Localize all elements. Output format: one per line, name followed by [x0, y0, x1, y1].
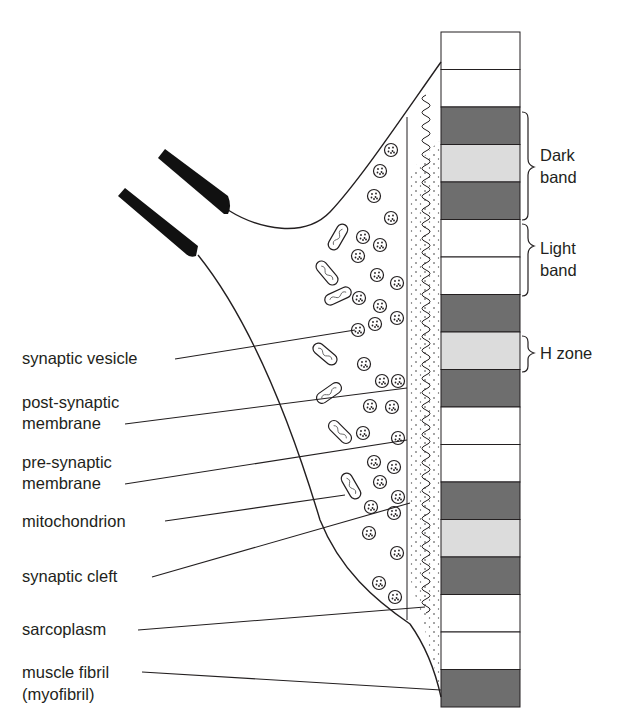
synaptic-vesicle: [357, 231, 370, 244]
axon-sheath-upper: [158, 149, 230, 214]
label-h-zone: H zone: [540, 344, 592, 363]
myofibril-band-white: [441, 220, 520, 258]
muscle-fibril: [441, 32, 520, 707]
myofibril-band-white: [441, 445, 520, 483]
synaptic-vesicle: [391, 547, 404, 560]
synaptic-vesicle: [371, 269, 384, 282]
synaptic-vesicle: [352, 250, 365, 263]
label-light-band-1: Light: [540, 239, 576, 258]
synaptic-vesicle: [374, 165, 387, 178]
nerve-terminal-outline: [228, 62, 441, 228]
label-sarcoplasm: sarcoplasm: [22, 620, 106, 639]
mitochondrion: [323, 285, 353, 307]
myofibril-band-white: [441, 595, 520, 633]
myofibril-band-white: [441, 70, 520, 108]
synaptic-vesicle: [385, 144, 398, 157]
myofibril-band-dark: [441, 107, 520, 145]
mitochondrion: [314, 259, 340, 288]
synaptic-vesicle: [389, 591, 402, 604]
label-synaptic-cleft: synaptic cleft: [22, 567, 117, 586]
label-post-synaptic-membrane-2: membrane: [22, 414, 101, 433]
synaptic-vesicles: [311, 144, 405, 604]
mitochondrion: [314, 380, 343, 405]
synaptic-vesicle: [364, 400, 377, 413]
myofibril-band-dark: [441, 482, 520, 520]
synaptic-vesicle: [392, 491, 405, 504]
myofibril-band-light: [441, 520, 520, 558]
synaptic-vesicle: [385, 212, 398, 225]
label-light-band-2: band: [540, 261, 577, 280]
synaptic-vesicle: [391, 312, 404, 325]
synaptic-vesicle: [391, 277, 404, 290]
myofibril-band-dark: [441, 295, 520, 333]
synaptic-vesicle: [386, 401, 399, 414]
myofibril-band-dark: [441, 670, 520, 708]
mitochondrion: [311, 341, 340, 367]
label-pre-synaptic-membrane-2: membrane: [22, 474, 101, 493]
nerve-terminal-outline-lower: [198, 255, 441, 697]
synaptic-vesicle: [388, 461, 401, 474]
synaptic-vesicle: [365, 501, 378, 514]
synaptic-vesicle: [392, 375, 405, 388]
label-muscle-fibril-2: (myofibril): [22, 685, 94, 704]
band-braces: [522, 112, 534, 372]
mitochondrion: [339, 471, 363, 501]
synaptic-vesicle: [368, 190, 381, 203]
synaptic-vesicle: [369, 318, 382, 331]
synaptic-vesicle: [358, 358, 371, 371]
label-muscle-fibril-1: muscle fibril: [22, 663, 109, 682]
myofibril-band-dark: [441, 370, 520, 408]
synaptic-vesicle: [373, 577, 386, 590]
synaptic-vesicle: [376, 375, 389, 388]
myofibril-band-dark: [441, 182, 520, 220]
mitochondrion: [326, 222, 350, 252]
myofibril-band-white: [441, 632, 520, 670]
mitochondrion: [326, 418, 354, 446]
myofibril-band-white: [441, 32, 520, 70]
axon-sheath-lower: [118, 188, 198, 257]
myofibril-band-white: [441, 407, 520, 445]
myofibril-band-light: [441, 145, 520, 183]
label-post-synaptic-membrane-1: post-synaptic: [22, 393, 119, 412]
synaptic-vesicle: [374, 300, 387, 313]
myofibril-band-white: [441, 257, 520, 295]
synaptic-vesicle: [353, 292, 366, 305]
myofibril-band-light: [441, 332, 520, 370]
label-dark-band-2: band: [540, 168, 577, 187]
synaptic-vesicle: [374, 476, 387, 489]
label-mitochondrion: mitochondrion: [22, 512, 126, 531]
label-pre-synaptic-membrane-1: pre-synaptic: [22, 453, 112, 472]
label-synaptic-vesicle: synaptic vesicle: [22, 349, 138, 368]
myofibril-band-dark: [441, 557, 520, 595]
label-dark-band-1: Dark: [540, 146, 575, 165]
synaptic-vesicle: [363, 527, 376, 540]
synaptic-vesicle: [368, 456, 381, 469]
synaptic-vesicle: [357, 427, 370, 440]
synaptic-vesicle: [374, 239, 387, 252]
